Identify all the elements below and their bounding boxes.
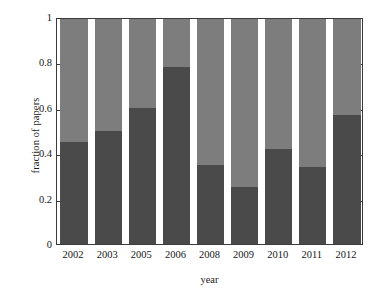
bar-segment-lower[interactable] (333, 115, 360, 244)
bar-segment-upper[interactable] (163, 19, 190, 69)
bar-group[interactable] (299, 19, 326, 244)
x-tick-label: 2010 (261, 249, 295, 261)
x-axis-tick-labels: 200220032005200620082009201020112012 (56, 249, 363, 265)
bar-segment-upper[interactable] (231, 19, 258, 189)
x-tick-label: 2005 (124, 249, 158, 261)
bar-segment-upper[interactable] (95, 19, 122, 133)
bar-group[interactable] (163, 19, 190, 244)
bar-segment-lower[interactable] (95, 131, 122, 245)
bar-segment-lower[interactable] (129, 108, 156, 244)
bar-group[interactable] (197, 19, 224, 244)
x-tick-label: 2002 (56, 249, 90, 261)
y-tick-label: 0.2 (4, 195, 52, 205)
bar-segment-lower[interactable] (60, 142, 87, 244)
y-axis-tick-labels: 00.20.40.60.81 (0, 0, 52, 302)
plot-area (56, 18, 363, 245)
x-tick-label: 2008 (192, 249, 226, 261)
x-tick-label: 2012 (329, 249, 363, 261)
bar-series-container (57, 19, 362, 244)
y-tick-label: 0.4 (4, 149, 52, 159)
y-tick-label: 1 (4, 13, 52, 23)
bar-group[interactable] (265, 19, 292, 244)
x-tick-label: 2011 (295, 249, 329, 261)
bar-group[interactable] (333, 19, 360, 244)
chart-figure: fraction of papers 00.20.40.60.81 200220… (0, 0, 392, 302)
bar-segment-upper[interactable] (60, 19, 87, 144)
bar-group[interactable] (95, 19, 122, 244)
bar-segment-upper[interactable] (129, 19, 156, 110)
bar-segment-lower[interactable] (231, 187, 258, 244)
x-tick-label: 2006 (158, 249, 192, 261)
bar-group[interactable] (129, 19, 156, 244)
bar-group[interactable] (231, 19, 258, 244)
bar-segment-upper[interactable] (299, 19, 326, 169)
x-tick-label: 2009 (227, 249, 261, 261)
bar-segment-upper[interactable] (197, 19, 224, 167)
bar-segment-upper[interactable] (265, 19, 292, 151)
bar-segment-upper[interactable] (333, 19, 360, 117)
bar-segment-lower[interactable] (265, 149, 292, 244)
x-tick-label: 2003 (90, 249, 124, 261)
bar-group[interactable] (60, 19, 87, 244)
bar-segment-lower[interactable] (163, 67, 190, 244)
bar-segment-lower[interactable] (197, 165, 224, 244)
x-axis-label: year (56, 274, 363, 285)
bar-segment-lower[interactable] (299, 167, 326, 244)
y-tick-label: 0.8 (4, 58, 52, 68)
y-tick-label: 0.6 (4, 104, 52, 114)
y-tick-label: 0 (4, 240, 52, 250)
